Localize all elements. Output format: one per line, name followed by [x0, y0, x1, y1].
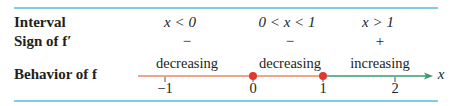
tick-label-2: 2 — [391, 80, 398, 97]
critical-point-0 — [249, 72, 257, 80]
tick-label-neg1: −1 — [157, 80, 172, 97]
tick-label-1: 1 — [319, 80, 326, 97]
number-line — [0, 0, 457, 106]
bottom-rule — [14, 100, 438, 102]
critical-point-1 — [319, 72, 327, 80]
tick-label-0: 0 — [249, 80, 256, 97]
axis-label: x — [438, 66, 445, 83]
